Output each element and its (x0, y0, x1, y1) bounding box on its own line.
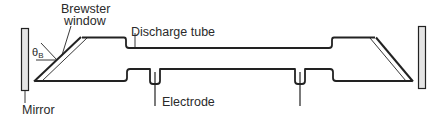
theta-subscript: B (38, 51, 43, 60)
brewster-angle-label: θB (32, 47, 43, 61)
right-mirror (419, 27, 426, 89)
brewster-window-label-2: window (64, 15, 106, 28)
electrode-text: Electrode (162, 95, 215, 109)
discharge-tube (35, 38, 412, 85)
brewster-window-label-line2: window (64, 14, 106, 28)
mirror-text: Mirror (22, 103, 55, 117)
discharge-tube-text: Discharge tube (131, 25, 215, 39)
left-mirror (22, 29, 29, 91)
electrode-label: Electrode (162, 96, 215, 109)
discharge-tube-label: Discharge tube (131, 26, 215, 39)
laser-tube-diagram: Brewster window Discharge tube Electrode… (0, 0, 447, 127)
mirror-label: Mirror (22, 104, 55, 117)
right-brewster-window (370, 38, 413, 82)
